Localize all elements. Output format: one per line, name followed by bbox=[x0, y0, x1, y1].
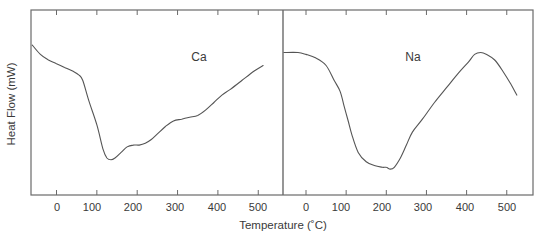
x-tick-label: 100 bbox=[332, 201, 350, 213]
right-x-tick-labels: 0 100 200 300 400 500 bbox=[303, 201, 516, 213]
x-tick-label: 500 bbox=[249, 201, 267, 213]
x-tick-label: 400 bbox=[456, 201, 474, 213]
ca-heat-flow-curve bbox=[32, 45, 263, 160]
plot-frame bbox=[31, 10, 533, 195]
x-axis-label: Temperature (˚C) bbox=[239, 219, 327, 231]
x-tick-label: 0 bbox=[54, 201, 60, 213]
x-tick-label: 100 bbox=[83, 201, 101, 213]
x-tick-label: 300 bbox=[166, 201, 184, 213]
x-tick-label: 200 bbox=[373, 201, 391, 213]
series-label-na: Na bbox=[405, 50, 421, 64]
tick-marks bbox=[57, 10, 507, 195]
series-label-ca: Ca bbox=[191, 50, 207, 64]
y-axis-label: Heat Flow (mW) bbox=[5, 62, 17, 145]
x-tick-label: 300 bbox=[414, 201, 432, 213]
x-tick-label: 400 bbox=[208, 201, 226, 213]
left-x-tick-labels: 0 100 200 300 400 500 bbox=[54, 201, 267, 213]
x-tick-label: 0 bbox=[303, 201, 309, 213]
na-heat-flow-curve bbox=[284, 52, 517, 169]
dsc-chart: 0 100 200 300 400 500 0 100 200 300 400 … bbox=[0, 0, 539, 234]
x-tick-label: 200 bbox=[124, 201, 142, 213]
x-tick-label: 500 bbox=[498, 201, 516, 213]
